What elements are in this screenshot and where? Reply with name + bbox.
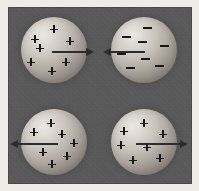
sphere-pair-repulsion xyxy=(8,7,192,184)
sphere-bottom-left xyxy=(21,109,87,175)
figure-canvas xyxy=(8,7,192,184)
electrostatics-figure xyxy=(0,0,199,191)
arrow-head xyxy=(10,140,18,148)
sphere-bottom-right xyxy=(111,109,177,175)
arrow-head xyxy=(180,140,188,148)
